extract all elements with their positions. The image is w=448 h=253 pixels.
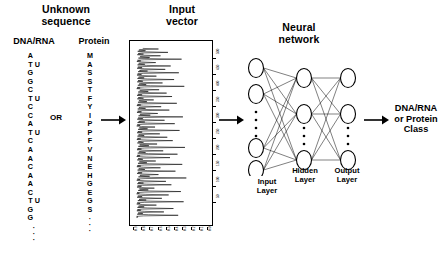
y-axis-tick — [213, 154, 216, 155]
y-axis-tick — [213, 138, 216, 139]
y-axis-tick-label: 200 — [217, 145, 220, 150]
dna-rna-column-header: DNA/RNA — [6, 36, 62, 46]
y-axis-tick-label: 150 — [217, 161, 220, 166]
y-axis-tick-label: 500 — [217, 49, 220, 54]
network-node — [249, 139, 264, 158]
y-axis-tick — [213, 202, 216, 203]
x-axis-tick-label: 0.7 — [151, 227, 154, 231]
y-axis-tick-label: 250 — [217, 129, 220, 134]
input-vector-x-axis: 0.90.80.70.60.50.40.30.20.10.0 — [129, 227, 215, 249]
dna-rna-base: G — [27, 214, 34, 223]
output-class-line1: DNA/RNA — [385, 103, 447, 114]
neural-network-heading-line1: Neural — [256, 22, 342, 34]
dna-rna-base-row: G — [13, 214, 55, 223]
neural-network-heading-line2: network — [256, 34, 342, 46]
y-axis-tick-label: 350 — [217, 97, 220, 102]
layer-ellipsis-dot — [255, 127, 258, 130]
dna-rna-base-row: TU — [13, 197, 55, 206]
unknown-sequence-heading: Unknown sequence — [14, 4, 118, 27]
hidden-layer-label-line2: Layer — [283, 176, 327, 185]
output-layer-label: Output Layer — [325, 167, 369, 184]
network-node — [297, 69, 312, 88]
network-node — [341, 69, 356, 88]
rna-alternate-base: U — [34, 197, 41, 206]
x-axis-tick-label: 0.6 — [160, 227, 163, 231]
y-axis-tick — [213, 58, 216, 59]
y-axis-tick — [213, 122, 216, 123]
dna-rna-base-row: A — [13, 52, 55, 61]
input-vector-heading: Input vector — [140, 4, 224, 27]
input-layer-label-line2: Layer — [246, 187, 288, 196]
layer-ellipsis-dot — [347, 135, 350, 138]
dna-rna-base-row: C — [13, 163, 55, 172]
y-axis-tick — [213, 186, 216, 187]
y-axis-tick — [213, 170, 216, 171]
output-layer-label-line2: Layer — [325, 176, 369, 185]
layer-ellipsis-dot — [255, 135, 258, 138]
dna-rna-base-row: G — [13, 69, 55, 78]
dna-rna-base-row: A — [13, 172, 55, 181]
sequence-continuation-dot: · — [78, 228, 102, 234]
layer-ellipsis-dot — [303, 135, 306, 138]
x-axis-tick-label: 0.5 — [168, 227, 171, 231]
unknown-sequence-heading-line2: sequence — [14, 16, 118, 28]
dna-rna-sequence-continuation: ··· — [13, 225, 55, 243]
dna-rna-base-row: G — [13, 206, 55, 215]
y-axis-tick-label: 50 — [217, 194, 220, 198]
output-class-line2: or Protein — [385, 114, 447, 125]
x-axis-tick-label: 0.9 — [135, 227, 138, 231]
input-vector-heading-line2: vector — [140, 16, 224, 28]
x-axis-tick-label: 0.8 — [143, 227, 146, 231]
x-axis-tick-label: 0.1 — [201, 227, 204, 231]
sequence-continuation-dot: · — [13, 237, 55, 243]
output-class-label: DNA/RNA or Protein Class — [385, 103, 447, 135]
network-node — [297, 105, 312, 124]
network-connection — [264, 114, 297, 148]
diagram-canvas: Unknown sequence DNA/RNA Protein ATUGGCT… — [0, 0, 448, 253]
network-connection — [264, 68, 297, 114]
layer-ellipsis-dot — [347, 143, 350, 146]
input-vector-plot — [129, 40, 213, 226]
dna-rna-sequence-list: ATUGGCTUCCATUCAACAACTUGG — [13, 52, 55, 223]
dna-rna-base-row: A — [13, 180, 55, 189]
layer-ellipsis-dot — [347, 127, 350, 130]
or-label: OR — [50, 113, 62, 122]
rna-alternate-base: U — [34, 61, 41, 70]
network-connection — [264, 68, 297, 160]
x-axis-tick-label: 0.3 — [184, 227, 187, 231]
dna-rna-base-row: A — [13, 120, 55, 129]
dna-rna-base-row: C — [13, 86, 55, 95]
layer-ellipsis-dot — [303, 127, 306, 130]
y-axis-tick — [213, 74, 216, 75]
input-vector-heading-line1: Input — [140, 4, 224, 16]
network-node — [249, 161, 264, 177]
dna-rna-base-row: TU — [13, 95, 55, 104]
x-axis-tick-label: 0.4 — [176, 227, 179, 231]
layer-ellipsis-dot — [255, 119, 258, 122]
neural-network-heading: Neural network — [256, 22, 342, 45]
dna-rna-base-row: A — [13, 155, 55, 164]
protein-sequence-continuation: ··· — [78, 216, 102, 234]
layer-ellipsis-dot — [303, 143, 306, 146]
layer-ellipsis-dot — [255, 111, 258, 114]
y-axis-tick-label: 100 — [217, 177, 220, 182]
unknown-sequence-heading-line1: Unknown — [14, 4, 118, 16]
input-vector-trace — [130, 41, 212, 225]
dna-rna-base-row: G — [13, 78, 55, 87]
y-axis-tick-label: 450 — [217, 65, 220, 70]
network-node — [341, 105, 356, 124]
dna-rna-base-row: TU — [13, 129, 55, 138]
protein-column-header: Protein — [68, 36, 120, 46]
hidden-layer-label: Hidden Layer — [283, 167, 327, 184]
dna-rna-base-row: A — [13, 146, 55, 155]
network-connection — [264, 78, 297, 148]
arrow-sequence-to-input-vector — [101, 114, 127, 126]
dna-rna-base-row: C — [13, 103, 55, 112]
rna-alternate-base: U — [34, 95, 41, 104]
dna-rna-base-row: TU — [13, 61, 55, 70]
y-axis-tick — [213, 90, 216, 91]
network-node — [249, 59, 264, 78]
rna-alternate-base: U — [34, 129, 41, 138]
neural-network-graph — [246, 56, 362, 176]
network-node — [249, 85, 264, 104]
